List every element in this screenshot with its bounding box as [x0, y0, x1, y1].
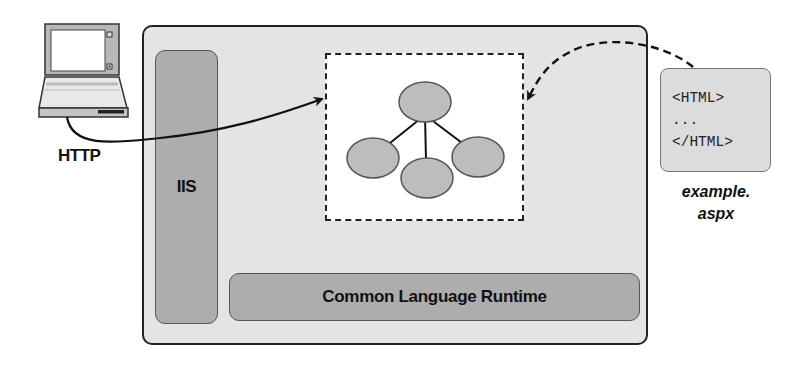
- laptop-icon: [39, 24, 128, 117]
- diagram-overlay: [0, 0, 808, 374]
- compile-arrow: [528, 42, 693, 99]
- object-tree-icon: [347, 82, 504, 198]
